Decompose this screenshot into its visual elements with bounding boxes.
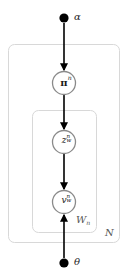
node-alpha-label: α (74, 12, 81, 22)
node-alpha[interactable] (59, 13, 68, 22)
plate-diagram: α π n z n w v n w θ Wn N (0, 0, 128, 280)
diagram-canvas (0, 0, 128, 280)
plate-outer-label: N (105, 228, 114, 238)
plate-inner-label: Wn (76, 215, 90, 226)
plate-inner-label-base: W (76, 214, 86, 225)
node-z-w-n[interactable] (53, 131, 76, 154)
node-v-w-n[interactable] (53, 191, 76, 214)
node-pi-n[interactable] (53, 72, 76, 95)
node-theta-label: θ (74, 257, 80, 267)
node-theta[interactable] (59, 258, 68, 267)
plate-inner-label-subscript: n (86, 219, 90, 226)
